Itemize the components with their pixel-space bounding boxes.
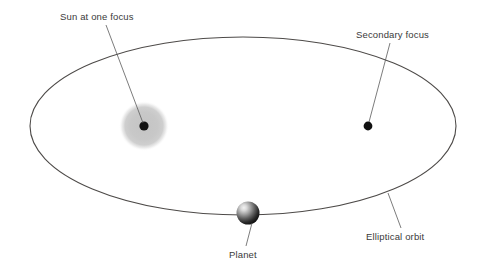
sun-label-text: Sun at one focus xyxy=(60,11,134,22)
secondary-focus-point xyxy=(364,122,373,131)
secondary-focus-label-text: Secondary focus xyxy=(356,29,429,40)
planet-label-text: Planet xyxy=(229,249,257,260)
elliptical-orbit-path xyxy=(30,37,456,215)
sun-focus-point xyxy=(139,121,148,130)
planet-leader-line xyxy=(246,223,252,246)
planet-sphere xyxy=(237,202,260,225)
orbit-diagram: Sun at one focus Secondary focus Planet … xyxy=(0,0,483,273)
sun-leader-line xyxy=(106,25,143,123)
elliptical-orbit-leader-line xyxy=(388,193,401,228)
elliptical-orbit-label-text: Elliptical orbit xyxy=(366,231,425,242)
diagram-canvas: Sun at one focus Secondary focus Planet … xyxy=(0,0,483,273)
